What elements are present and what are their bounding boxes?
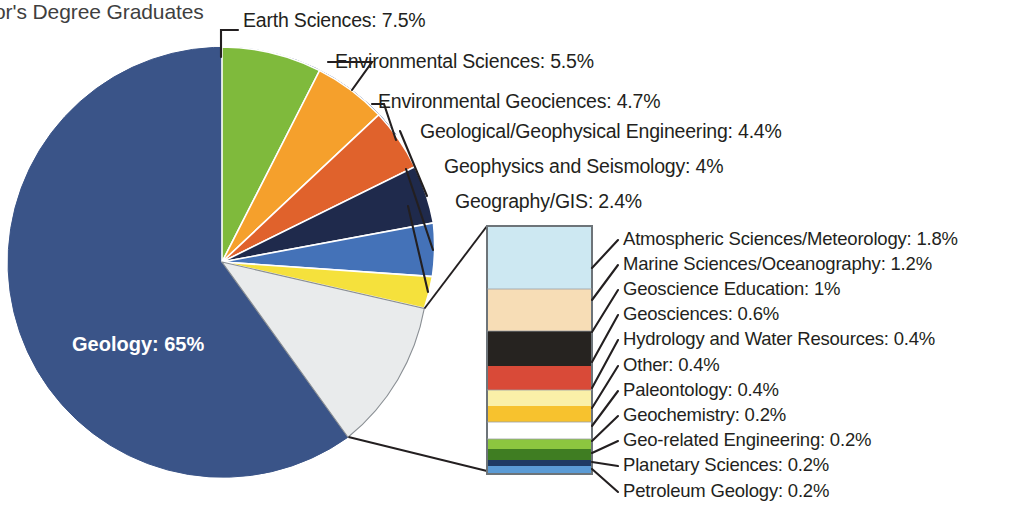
leader-planetary-sciences [592,462,618,466]
callout-label-environmental-sciences: Environmental Sciences: 5.5% [335,50,594,73]
breakout-label-hydrology-and-water-resources: Hydrology and Water Resources: 0.4% [623,328,935,350]
bar-segment-marine-sciences-oceanography [487,289,592,331]
bar-segment-paleontology [487,422,592,439]
leader-geo-related-engineering [592,441,618,453]
breakout-label-atmospheric-sciences-meteorology: Atmospheric Sciences/Meteorology: 1.8% [623,228,958,250]
breakout-label-planetary-sciences: Planetary Sciences: 0.2% [623,454,829,476]
bar-segment-geochemistry [487,439,592,449]
pie-slice-label-geology: Geology: 65% [72,333,204,356]
breakout-label-geoscience-education: Geoscience Education: 1% [623,278,840,300]
breakout-label-geosciences: Geosciences: 0.6% [623,303,779,325]
callout-label-geophysics-seismology: Geophysics and Seismology: 4% [444,155,723,178]
pie-slices [8,47,435,477]
breakout-stacked-bar [487,226,592,474]
callout-label-earth-sciences: Earth Sciences: 7.5% [243,9,425,32]
leader-geosciences [592,315,618,362]
leader-other [592,366,618,408]
breakout-label-paleontology: Paleontology: 0.4% [623,379,779,401]
leader-petroleum-geology [592,469,618,492]
bar-segment-petroleum-geology [487,466,592,474]
breakout-label-marine-sciences-oceanography: Marine Sciences/Oceanography: 1.2% [623,253,932,275]
callout-label-geological-geophysical-engineering: Geological/Geophysical Engineering: 4.4% [420,120,782,143]
bar-segment-hydrology-water-resources [487,390,592,406]
breakout-label-other: Other: 0.4% [623,354,720,376]
bar-leader-lines [592,240,618,492]
bar-segment-other [487,406,592,422]
breakout-label-petroleum-geology: Petroleum Geology: 0.2% [623,480,829,502]
bar-segment-geoscience-education [487,331,592,366]
leader-atmospheric-sciences [592,240,618,268]
callout-label-geography-gis: Geography/GIS: 2.4% [455,190,642,213]
breakout-label-geochemistry: Geochemistry: 0.2% [623,404,786,426]
bar-segment-geo-related-engineering [487,449,592,460]
pie-chart-figure: or's Degree Graduates [0,0,1013,517]
breakout-label-geo-related-engineering: Geo-related Engineering: 0.2% [623,429,871,451]
bar-segment-planetary-sciences [487,460,592,466]
bar-segment-atmospheric-sciences-meteorology [487,226,592,289]
leader-hydrology [592,340,618,388]
bar-segment-geosciences [487,366,592,390]
connector-bottom [349,437,488,471]
callout-label-environmental-geociences: Environmental Geociences: 4.7% [378,90,660,113]
